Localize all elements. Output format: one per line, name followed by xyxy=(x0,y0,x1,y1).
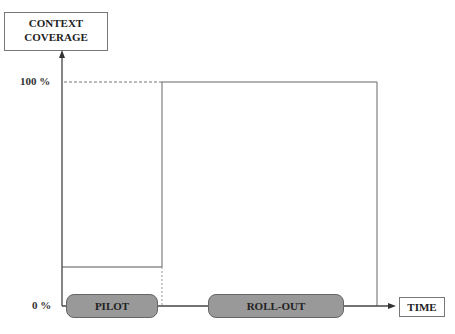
phase-roll-out: ROLL-OUT xyxy=(208,294,344,318)
phase-pilot: PILOT xyxy=(66,294,158,318)
coverage-diagram xyxy=(0,0,455,334)
x-axis-label-box: TIME xyxy=(399,297,445,317)
